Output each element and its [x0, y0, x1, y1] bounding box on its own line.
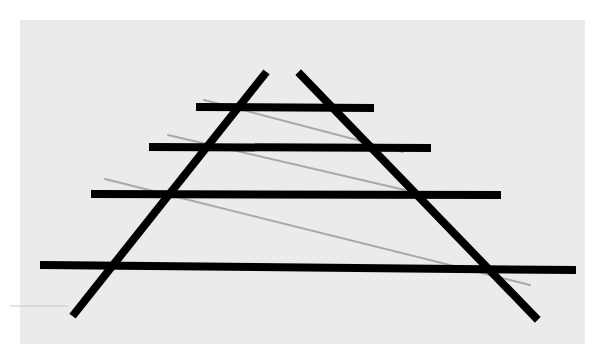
bar-2-line: [153, 147, 427, 148]
diagram-stage: [0, 0, 607, 357]
bar-1-line: [200, 107, 370, 108]
bar-3-line: [95, 194, 497, 195]
horizontal-bars: [44, 107, 572, 270]
ponzo-illusion-figure: [0, 0, 607, 357]
